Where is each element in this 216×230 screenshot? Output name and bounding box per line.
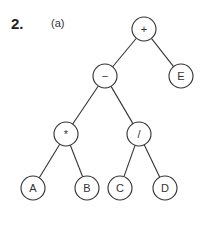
tree-node-E: E [169,64,193,88]
node-label: * [64,128,69,140]
node-label: − [102,70,108,82]
node-label: + [141,23,147,35]
tree-node-plus: + [132,17,156,41]
node-label: D [161,182,169,194]
tree-nodes: +−E*/ABCD [21,17,193,200]
node-label: E [177,70,184,82]
tree-node-C: C [108,176,132,200]
tree-node-minus: − [93,64,117,88]
tree-edges [39,38,173,178]
tree-edge-div-C [124,145,135,176]
tree-node-times: * [54,122,78,146]
tree-node-A: A [21,176,45,200]
node-label: A [29,182,37,194]
node-label: B [83,182,90,194]
tree-node-B: B [75,176,99,200]
tree-edge-plus-minus [113,38,137,67]
tree-edge-minus-div [111,86,133,123]
tree-edge-minus-times [73,86,99,124]
expression-tree: +−E*/ABCD [0,0,216,230]
tree-edge-times-B [70,145,82,177]
node-label: C [116,182,124,194]
tree-node-D: D [153,176,177,200]
tree-node-div: / [127,122,151,146]
tree-edge-div-D [144,145,160,177]
tree-edge-plus-E [151,38,173,66]
tree-edge-times-A [39,144,59,178]
